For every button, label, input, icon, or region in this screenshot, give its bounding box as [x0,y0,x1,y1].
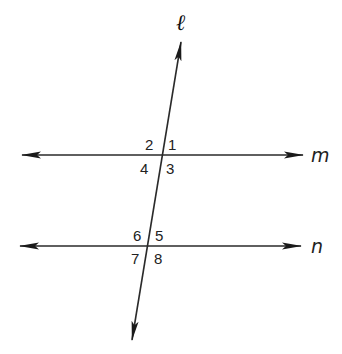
angle-label-5: 5 [155,227,163,244]
parallel-lines-diagram: ℓ m n 2 1 4 3 6 5 7 8 [0,0,342,354]
label-n: n [311,235,323,257]
label-m: m [311,144,330,166]
angle-label-8: 8 [154,250,162,267]
label-l: ℓ [176,10,186,35]
angle-label-2: 2 [145,136,153,153]
transversal-line-l [132,42,181,340]
angle-label-3: 3 [166,160,174,177]
angle-label-1: 1 [168,136,176,153]
angle-label-7: 7 [131,250,139,267]
angle-label-6: 6 [133,227,141,244]
angle-label-4: 4 [140,160,148,177]
